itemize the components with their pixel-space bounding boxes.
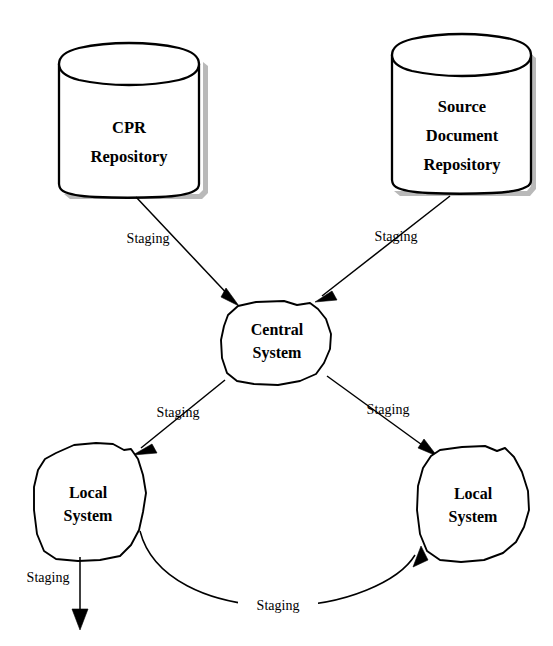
edge-local-left-to-local-right-label: Staging (257, 598, 300, 613)
edge-local-left-downstream-label: Staging (27, 570, 70, 585)
edge-local-left-downstream[interactable]: Staging (27, 557, 88, 630)
edge-cpr-to-central[interactable]: Staging (127, 197, 239, 306)
local-system-right-label-line1: Local (454, 485, 493, 502)
source-document-repository-label-line3: Repository (424, 155, 502, 174)
edge-local-left-to-local-right-line (140, 531, 415, 606)
edge-source-to-central-line (322, 196, 450, 296)
local-system-right-shape (417, 446, 529, 562)
edge-cpr-to-central-label: Staging (127, 231, 170, 246)
node-source-document-repository[interactable]: Source Document Repository (392, 34, 536, 196)
local-system-left-label-line1: Local (69, 484, 108, 501)
central-system-label-line1: Central (251, 321, 304, 338)
edge-local-left-to-local-right[interactable]: Staging (140, 531, 428, 613)
node-cpr-repository[interactable]: CPR Repository (59, 43, 208, 199)
node-local-system-right[interactable]: Local System (417, 446, 529, 562)
source-document-repository-label-line1: Source (438, 97, 486, 116)
edge-source-to-central[interactable]: Staging (315, 196, 450, 302)
local-system-right-label-line2: System (449, 508, 499, 526)
cpr-repository-label-line2: Repository (91, 147, 169, 166)
edge-central-to-local-right[interactable]: Staging (327, 376, 437, 456)
edge-local-left-downstream-arrowhead (72, 609, 88, 630)
diagram-svg: CPR Repository Source Document Repositor… (0, 0, 553, 646)
local-system-left-label-line2: System (64, 507, 114, 525)
edge-source-to-central-label: Staging (375, 229, 418, 244)
cpr-repository-label-line1: CPR (112, 118, 147, 137)
edge-central-to-local-left[interactable]: Staging (133, 380, 225, 455)
edge-cpr-to-central-line (136, 197, 233, 300)
edge-central-to-local-right-label: Staging (367, 402, 410, 417)
diagram-canvas: CPR Repository Source Document Repositor… (0, 0, 553, 646)
edge-central-to-local-left-label: Staging (157, 405, 200, 420)
node-central-system[interactable]: Central System (221, 301, 331, 385)
cpr-repository-top-ellipse (59, 43, 199, 85)
local-system-left-shape (34, 443, 146, 561)
source-document-repository-label-line2: Document (426, 126, 499, 145)
central-system-label-line2: System (253, 344, 303, 362)
source-document-repository-top-ellipse (392, 34, 531, 76)
node-local-system-left[interactable]: Local System (34, 443, 146, 561)
